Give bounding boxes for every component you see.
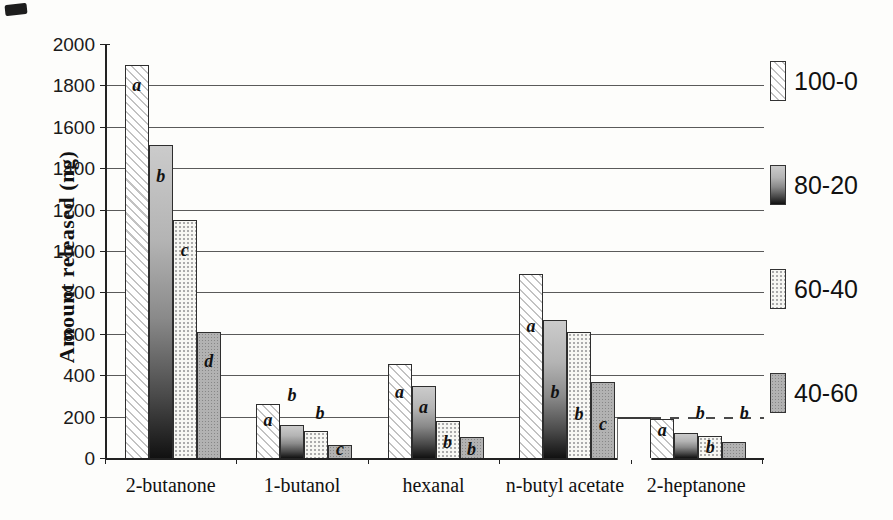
x-tick-mark	[762, 458, 763, 464]
figure: Amount released (ng) abcdabbcaabbabbcabb…	[0, 0, 893, 520]
y-tick-label: 1000	[33, 242, 95, 261]
significance-letter: a	[649, 421, 675, 439]
scan-artifact-mark	[4, 3, 27, 16]
category-label: n-butyl acetate	[499, 474, 630, 497]
y-tick-label: 1600	[33, 118, 95, 137]
y-tick-mark	[100, 44, 110, 45]
significance-letter: d	[196, 352, 222, 370]
legend-item-80-20: 80-20	[770, 164, 858, 206]
y-tick-label: 1800	[33, 76, 95, 95]
legend-swatch-hatch-icon	[770, 61, 786, 101]
legend-item-60-40: 60-40	[770, 268, 858, 310]
grid-line	[107, 210, 764, 211]
grid-line	[107, 168, 764, 169]
significance-letter: b	[687, 404, 713, 422]
significance-letter: b	[731, 404, 757, 422]
significance-letter: b	[435, 433, 461, 451]
y-tick-label: 1400	[33, 159, 95, 178]
x-tick-mark	[368, 458, 369, 464]
y-tick-label: 1200	[33, 201, 95, 220]
bar-100-0-2-butanone	[125, 65, 149, 458]
significance-letter: b	[566, 405, 592, 423]
category-label: 2-heptanone	[631, 474, 762, 497]
legend-item-40-60: 40-60	[770, 372, 858, 414]
legend-label: 80-20	[794, 173, 858, 198]
legend-item-100-0: 100-0	[770, 60, 858, 102]
legend-swatch-stipple-light-icon	[770, 269, 786, 309]
y-tick-label: 600	[33, 325, 95, 344]
legend-label: 40-60	[794, 381, 858, 406]
y-tick-label: 800	[33, 283, 95, 302]
x-tick-mark	[105, 458, 106, 464]
bar-80-20-2-butanone	[149, 145, 173, 458]
significance-letter: b	[542, 383, 568, 401]
bar-80-20-2-heptanone	[674, 433, 698, 458]
significance-letter: b	[307, 404, 333, 422]
significance-letter: b	[697, 438, 723, 456]
significance-letter: a	[411, 398, 437, 416]
significance-letter: c	[172, 241, 198, 259]
significance-letter: c	[590, 415, 616, 433]
legend-label: 100-0	[794, 69, 858, 94]
significance-letter: b	[459, 440, 485, 458]
category-label: 1-butanol	[236, 474, 367, 497]
significance-letter: a	[387, 383, 413, 401]
bar-60-40-n-butyl acetate	[567, 332, 591, 458]
category-label: 2-butanone	[105, 474, 236, 497]
grid-line	[107, 85, 764, 86]
bar-80-20-1-butanol	[280, 425, 304, 458]
legend-swatch-stipple-gray-icon	[770, 373, 786, 413]
bar-60-40-1-butanol	[304, 431, 328, 458]
grid-line	[107, 127, 764, 128]
bar-100-0-n-butyl acetate	[519, 274, 543, 458]
legend-swatch-gradient-icon	[770, 165, 786, 205]
significance-letter: b	[148, 167, 174, 185]
category-label: hexanal	[368, 474, 499, 497]
bar-40-60-2-heptanone	[722, 442, 746, 458]
bar-100-0-hexanal	[388, 364, 412, 458]
significance-letter: c	[327, 440, 353, 458]
y-tick-label: 400	[33, 366, 95, 385]
grid-line	[107, 292, 764, 293]
y-tick-label: 2000	[33, 35, 95, 54]
significance-letter: a	[124, 76, 150, 94]
x-tick-mark	[499, 458, 500, 464]
significance-letter: a	[255, 411, 281, 429]
scan-artifact-box	[617, 417, 652, 460]
x-tick-mark	[236, 458, 237, 464]
significance-letter: a	[518, 317, 544, 335]
significance-letter: b	[279, 386, 305, 404]
grid-line	[107, 251, 764, 252]
legend-label: 60-40	[794, 277, 858, 302]
y-tick-label: 0	[33, 449, 95, 468]
plot-area: abcdabbcaabbabbcabbb	[105, 44, 764, 460]
y-tick-label: 200	[33, 408, 95, 427]
